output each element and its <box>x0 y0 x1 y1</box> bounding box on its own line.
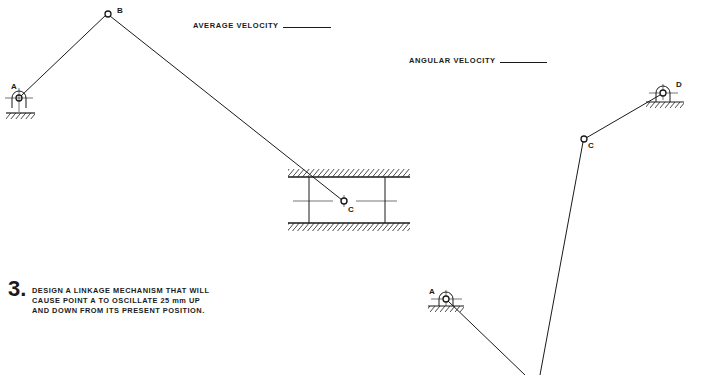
angular-velocity-blank[interactable] <box>500 62 547 63</box>
problem-line-3: AND DOWN FROM ITS PRESENT POSITION. <box>32 306 209 316</box>
crank-ab <box>21 14 107 96</box>
problem-line-1: DESIGN A LINKAGE MECHANISM THAT WILL <box>32 286 209 296</box>
point-label-d: D <box>676 80 682 89</box>
point-label-c2: C <box>588 141 594 150</box>
four-bar-mechanism <box>428 84 684 375</box>
ground-pivot-a-icon <box>5 88 35 119</box>
point-label-c: C <box>348 205 354 214</box>
point-label-b: B <box>117 6 123 15</box>
point-label-a: A <box>11 82 17 91</box>
linkage-drawing <box>0 0 701 375</box>
joint-c-icon <box>341 198 347 204</box>
link-a-down <box>448 301 525 375</box>
angular-velocity-field: ANGULAR VELOCITY <box>409 56 547 65</box>
angular-velocity-label: ANGULAR VELOCITY <box>409 56 496 65</box>
link-c-down <box>540 142 583 375</box>
slider-crank-mechanism <box>5 11 410 231</box>
joint-c2-icon <box>581 136 587 142</box>
problem-number: 3. <box>8 276 26 302</box>
link-cd <box>586 95 660 138</box>
slider-guide-icon <box>288 169 410 231</box>
average-velocity-field: AVERAGE VELOCITY <box>193 21 331 30</box>
problem-text: DESIGN A LINKAGE MECHANISM THAT WILL CAU… <box>32 286 209 316</box>
average-velocity-label: AVERAGE VELOCITY <box>193 21 279 30</box>
problem-line-2: CAUSE POINT A TO OSCILLATE 25 mm UP <box>32 296 209 306</box>
point-label-a2: A <box>429 287 435 296</box>
average-velocity-blank[interactable] <box>283 27 331 28</box>
